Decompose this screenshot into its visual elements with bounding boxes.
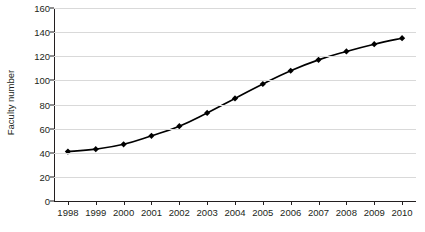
y-axis-tick-mark [50, 56, 54, 57]
gridline [54, 32, 416, 33]
x-axis-tick-label: 2004 [224, 207, 245, 218]
gridline [54, 56, 416, 57]
y-axis-tick-label: 60 [39, 123, 50, 134]
x-axis-tick-label: 2001 [141, 207, 162, 218]
y-axis-tick-mark [50, 128, 54, 129]
y-axis-tick-mark [50, 176, 54, 177]
x-axis-tick-mark [68, 201, 69, 205]
x-axis-tick-label: 2003 [197, 207, 218, 218]
y-axis-title: Faculty number [0, 0, 22, 205]
data-point-marker [343, 48, 349, 54]
x-axis-tick-label: 1999 [85, 207, 106, 218]
x-axis-tick-mark [235, 201, 236, 205]
gridline [54, 177, 416, 178]
gridline [54, 8, 416, 9]
data-point-marker [232, 95, 238, 101]
y-axis-tick-mark [50, 104, 54, 105]
data-point-marker [260, 81, 266, 87]
x-axis-tick-mark [96, 201, 97, 205]
series-line [68, 38, 402, 151]
y-axis-tick-labels: 020406080100120140160 [22, 0, 54, 232]
data-point-marker [93, 146, 99, 152]
x-axis-tick-mark [374, 201, 375, 205]
y-axis-tick-label: 40 [39, 147, 50, 158]
x-axis-tick-label: 2008 [336, 207, 357, 218]
x-axis-tick-mark [207, 201, 208, 205]
x-axis-tick-labels: 1998199920002001200220032004200520062007… [0, 207, 425, 227]
y-axis-tick-mark [50, 80, 54, 81]
data-point-marker [371, 41, 377, 47]
y-axis-tick-mark [50, 152, 54, 153]
gridline [54, 105, 416, 106]
data-point-marker [121, 141, 127, 147]
y-axis-tick-label: 140 [34, 27, 50, 38]
x-axis-tick-mark [291, 201, 292, 205]
x-axis-tick-mark [346, 201, 347, 205]
gridline [54, 80, 416, 81]
gridline [54, 129, 416, 130]
x-axis-tick-label: 2010 [391, 207, 412, 218]
data-point-marker [288, 68, 294, 74]
y-axis-tick-mark [50, 32, 54, 33]
faculty-number-line-chart: Faculty number 020406080100120140160 199… [0, 0, 425, 232]
x-axis-tick-mark [263, 201, 264, 205]
y-axis-tick-label: 80 [39, 99, 50, 110]
x-axis-tick-mark [319, 201, 320, 205]
data-point-marker [399, 35, 405, 41]
x-axis-tick-mark [151, 201, 152, 205]
x-axis-tick-mark [179, 201, 180, 205]
y-axis-title-label: Faculty number [6, 70, 17, 135]
y-axis-tick-mark [50, 201, 54, 202]
data-point-marker [315, 57, 321, 63]
x-axis-tick-label: 2007 [308, 207, 329, 218]
gridline [54, 153, 416, 154]
x-axis-tick-mark [402, 201, 403, 205]
data-point-marker [204, 110, 210, 116]
x-axis-tick-mark [124, 201, 125, 205]
x-axis-tick-label: 2000 [113, 207, 134, 218]
y-axis-tick-label: 20 [39, 171, 50, 182]
y-axis-tick-label: 160 [34, 3, 50, 14]
x-axis-tick-label: 1998 [57, 207, 78, 218]
x-axis-tick-label: 2009 [364, 207, 385, 218]
data-point-marker [148, 133, 154, 139]
y-axis-tick-label: 100 [34, 75, 50, 86]
y-axis-tick-label: 120 [34, 51, 50, 62]
x-axis-tick-label: 2006 [280, 207, 301, 218]
x-axis-tick-label: 2005 [252, 207, 273, 218]
plot-area [54, 8, 416, 201]
x-axis-tick-label: 2002 [169, 207, 190, 218]
y-axis-tick-mark [50, 8, 54, 9]
